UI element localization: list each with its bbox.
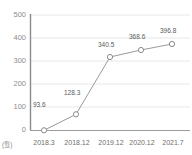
- data-point-marker: [138, 47, 143, 52]
- data-point-markers: [41, 41, 174, 133]
- data-point-label: 128.3: [64, 89, 80, 96]
- data-point-label: 93.6: [33, 101, 46, 108]
- x-tick-label: 2021.7: [157, 139, 189, 147]
- data-point-marker: [41, 128, 46, 133]
- data-point-marker: [107, 54, 112, 59]
- x-tick-label: 2020.12: [124, 139, 160, 147]
- data-point-label: 368.6: [129, 33, 145, 40]
- x-tick-label: 2018.3: [28, 139, 60, 147]
- plot-area: [0, 0, 192, 155]
- data-point-marker: [169, 41, 174, 46]
- line-chart: 500 400 300 200 100 0 93.6 128.3 340.5 3…: [0, 0, 192, 155]
- data-point-label: 340.5: [98, 41, 114, 48]
- data-point-marker: [73, 112, 78, 117]
- x-tick-label: 2018.12: [59, 139, 95, 147]
- data-point-label: 396.8: [160, 27, 176, 34]
- x-axis-unit-label: (월): [2, 139, 12, 149]
